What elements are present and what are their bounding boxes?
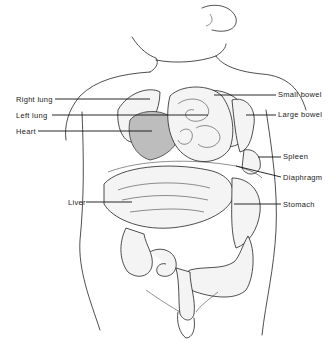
label-left-lung: Left lung xyxy=(16,111,47,120)
label-large-bowel: Large bowel xyxy=(278,110,322,119)
label-small-bowel: Small bowel xyxy=(278,90,322,99)
label-stomach: Stomach xyxy=(283,200,315,209)
label-diaphragm: Diaphragm xyxy=(283,173,322,182)
label-liver: Liver xyxy=(68,198,86,207)
label-spleen: Spleen xyxy=(283,152,308,161)
anatomy-figure: Right lung Left lung Heart Liver Small b… xyxy=(0,0,334,349)
label-right-lung: Right lung xyxy=(16,95,53,104)
label-heart: Heart xyxy=(16,127,36,136)
